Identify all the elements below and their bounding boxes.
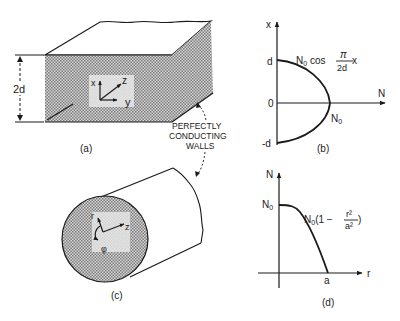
svg-text:N0(1 −: N0(1 − — [304, 214, 333, 226]
d-x-axis-label: r — [367, 268, 371, 279]
dimension-label: 2d — [13, 83, 25, 95]
svg-text:2d: 2d — [337, 63, 347, 73]
walls-label-line3: WALLS — [186, 141, 215, 151]
b-y-axis-label: x — [266, 19, 271, 30]
panel-c: r z φ (c) — [62, 168, 203, 301]
caption-d: (d) — [322, 297, 334, 308]
caption-c: (c) — [111, 290, 123, 301]
axis-z-label: z — [122, 75, 127, 86]
svg-text:π: π — [340, 49, 347, 60]
d-tick-a: a — [324, 275, 330, 286]
cylinder-wavy-end — [173, 168, 203, 243]
panel-d: N N0 a r N0(1 − r² a² ) (d) — [258, 169, 371, 308]
panel-b: x d 0 -d N N0 cos π 2d x N0 (b) — [262, 19, 385, 154]
cylinder-axes: r z φ — [91, 211, 130, 254]
d-formula: N0(1 − r² a² ) — [304, 209, 361, 231]
b-x-axis-label: N — [378, 88, 385, 99]
axis-y-label: y — [125, 96, 131, 108]
walls-label-line2: CONDUCTING — [169, 131, 227, 141]
b-cosine-curve — [277, 60, 330, 143]
axis-phi-label: φ — [101, 244, 107, 254]
caption-a: (a) — [80, 143, 92, 154]
svg-text:a²: a² — [345, 221, 353, 231]
svg-text:): ) — [358, 214, 361, 225]
b-tick-minus-d: -d — [262, 138, 271, 149]
b-tick-d: d — [267, 56, 273, 67]
caption-b: (b) — [317, 143, 329, 154]
slab-axes: x z y — [89, 75, 134, 108]
d-y-axis-label: N — [266, 169, 273, 180]
walls-label-line1: PERFECTLY — [172, 121, 222, 131]
dimension-2d: 2d — [12, 55, 44, 122]
b-peak-label: N0 — [331, 113, 342, 125]
svg-text:r²: r² — [346, 209, 352, 219]
axis-x-label: x — [91, 78, 96, 88]
d-tick-n0: N0 — [262, 199, 273, 211]
svg-text:x: x — [352, 55, 357, 66]
axis-r-label: r — [91, 211, 94, 221]
b-tick-zero: 0 — [268, 98, 274, 109]
axis-z-label-c: z — [125, 222, 130, 232]
figure-canvas: 2d x z y (a) PERFECTLY CONDUCTING WALLS … — [0, 0, 400, 321]
svg-text:N0 cos: N0 cos — [296, 55, 325, 67]
